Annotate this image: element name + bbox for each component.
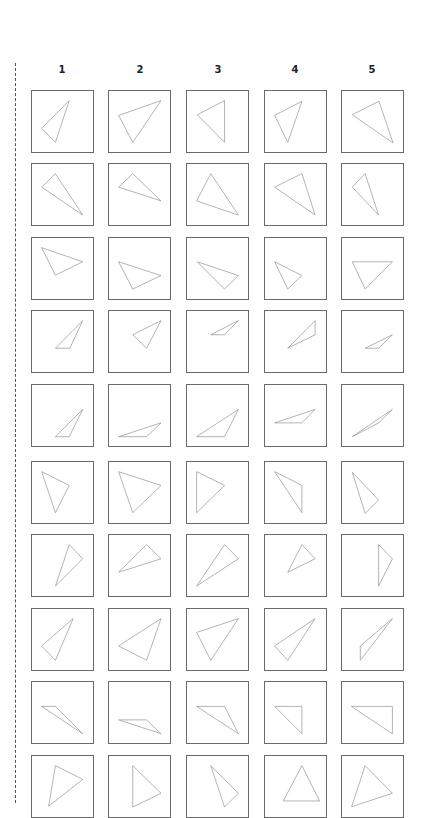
triangle-shape bbox=[275, 409, 315, 422]
triangle-cell-r2-c1 bbox=[31, 163, 94, 226]
triangle-cell-r2-c2 bbox=[108, 163, 171, 226]
triangle-shape bbox=[379, 545, 393, 586]
triangle-shape bbox=[352, 262, 392, 289]
triangle-cell-r3-c1 bbox=[31, 237, 94, 300]
triangle-shape bbox=[275, 472, 302, 513]
triangle-shape bbox=[119, 619, 161, 661]
triangle-icon bbox=[265, 609, 326, 670]
triangle-icon bbox=[187, 164, 248, 225]
triangle-cell-r1-c3 bbox=[186, 90, 249, 153]
column-header-3: 3 bbox=[198, 64, 238, 75]
triangle-shape bbox=[288, 321, 315, 349]
triangle-cell-r5-c2 bbox=[108, 384, 171, 447]
triangle-cell-r4-c4 bbox=[264, 310, 327, 373]
triangle-icon bbox=[265, 385, 326, 446]
triangle-cell-r4-c3 bbox=[186, 310, 249, 373]
triangle-shape bbox=[275, 174, 315, 215]
triangle-icon bbox=[187, 682, 248, 743]
triangle-shape bbox=[197, 409, 239, 436]
triangle-shape bbox=[42, 101, 70, 143]
triangle-icon bbox=[342, 311, 403, 372]
triangle-icon bbox=[109, 238, 170, 299]
triangle-icon bbox=[109, 91, 170, 152]
triangle-shape bbox=[352, 409, 392, 436]
triangle-icon bbox=[32, 756, 93, 817]
triangle-shape bbox=[119, 101, 161, 143]
triangle-shape bbox=[352, 766, 393, 807]
triangle-cell-r10-c1 bbox=[31, 755, 94, 818]
triangle-shape bbox=[275, 262, 302, 289]
triangle-shape bbox=[119, 423, 161, 437]
triangle-shape bbox=[119, 545, 161, 573]
triangle-cell-r3-c3 bbox=[186, 237, 249, 300]
triangle-icon bbox=[265, 462, 326, 523]
triangle-icon bbox=[342, 609, 403, 670]
triangle-icon bbox=[109, 164, 170, 225]
column-header-4: 4 bbox=[275, 64, 315, 75]
triangle-cell-r9-c2 bbox=[108, 681, 171, 744]
triangle-icon bbox=[187, 462, 248, 523]
triangle-shape bbox=[211, 321, 239, 335]
triangle-icon bbox=[32, 462, 93, 523]
triangle-shape bbox=[42, 248, 83, 276]
triangle-cell-r6-c5 bbox=[341, 461, 404, 524]
triangle-icon bbox=[342, 385, 403, 446]
triangle-cell-r4-c1 bbox=[31, 310, 94, 373]
triangle-icon bbox=[109, 535, 170, 596]
triangle-shape bbox=[275, 101, 302, 142]
triangle-cell-r1-c4 bbox=[264, 90, 327, 153]
triangle-cell-r7-c3 bbox=[186, 534, 249, 597]
triangle-icon bbox=[32, 164, 93, 225]
triangle-icon bbox=[342, 682, 403, 743]
triangle-shape bbox=[197, 174, 239, 215]
triangle-icon bbox=[342, 535, 403, 596]
triangle-icon bbox=[32, 91, 93, 152]
triangle-icon bbox=[109, 311, 170, 372]
triangle-cell-r3-c2 bbox=[108, 237, 171, 300]
triangle-icon bbox=[265, 311, 326, 372]
triangle-cell-r2-c5 bbox=[341, 163, 404, 226]
triangle-shape bbox=[55, 409, 82, 436]
triangle-icon bbox=[187, 756, 248, 817]
triangle-shape bbox=[365, 335, 392, 348]
triangle-icon bbox=[265, 682, 326, 743]
triangle-icon bbox=[109, 462, 170, 523]
triangle-icon bbox=[342, 164, 403, 225]
triangle-shape bbox=[42, 619, 73, 661]
triangle-icon bbox=[187, 311, 248, 372]
triangle-cell-r5-c4 bbox=[264, 384, 327, 447]
triangle-icon bbox=[187, 385, 248, 446]
triangle-shape bbox=[275, 706, 302, 733]
triangle-cell-r7-c4 bbox=[264, 534, 327, 597]
triangle-cell-r2-c3 bbox=[186, 163, 249, 226]
triangle-cell-r8-c2 bbox=[108, 608, 171, 671]
triangle-cell-r1-c2 bbox=[108, 90, 171, 153]
triangle-cell-r5-c1 bbox=[31, 384, 94, 447]
triangle-cell-r10-c5 bbox=[341, 755, 404, 818]
triangle-icon bbox=[187, 535, 248, 596]
triangle-shape bbox=[55, 545, 82, 586]
triangle-cell-r4-c5 bbox=[341, 310, 404, 373]
triangle-icon bbox=[32, 385, 93, 446]
triangle-shape bbox=[211, 766, 239, 807]
column-header-1: 1 bbox=[42, 64, 82, 75]
triangle-shape bbox=[352, 174, 378, 215]
triangle-cell-r8-c3 bbox=[186, 608, 249, 671]
triangle-icon bbox=[32, 609, 93, 670]
triangle-icon bbox=[32, 311, 93, 372]
triangle-shape bbox=[42, 706, 83, 733]
triangle-shape bbox=[119, 262, 161, 289]
triangle-cell-r5-c5 bbox=[341, 384, 404, 447]
triangle-icon bbox=[187, 238, 248, 299]
triangle-icon bbox=[265, 535, 326, 596]
triangle-icon bbox=[109, 609, 170, 670]
triangle-shape bbox=[119, 472, 161, 513]
triangle-icon bbox=[187, 609, 248, 670]
triangle-cell-r6-c3 bbox=[186, 461, 249, 524]
column-header-5: 5 bbox=[352, 64, 392, 75]
triangle-icon bbox=[109, 756, 170, 817]
triangle-shape bbox=[352, 472, 378, 513]
triangle-cell-r10-c2 bbox=[108, 755, 171, 818]
triangle-icon bbox=[32, 682, 93, 743]
triangle-shape bbox=[55, 321, 82, 349]
